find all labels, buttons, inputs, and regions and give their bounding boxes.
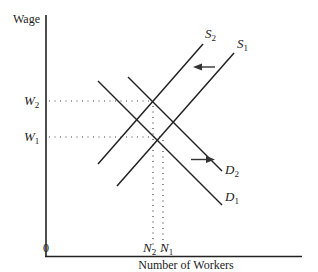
worker-label-n2: N2 xyxy=(142,240,156,257)
labor-market-diagram: Wage Number of Workers 0 W2 W1 N2 N1 S2 … xyxy=(0,0,318,272)
y-axis-label: Wage xyxy=(13,12,40,26)
x-axis-label: Number of Workers xyxy=(138,258,234,272)
supply-shift-arrow-icon xyxy=(193,64,215,71)
wage-label-w1: W1 xyxy=(24,129,39,146)
curve-label-s2: S2 xyxy=(205,26,216,43)
worker-label-n1: N1 xyxy=(159,240,173,257)
curve-label-d1: D1 xyxy=(224,189,239,206)
curve-label-d2: D2 xyxy=(224,162,239,179)
curve-label-s1: S1 xyxy=(237,36,248,53)
wage-label-w2: W2 xyxy=(24,93,39,110)
origin-label: 0 xyxy=(43,241,49,255)
demand-shift-arrow-icon xyxy=(191,156,215,163)
supply-curve-s2 xyxy=(98,44,203,164)
